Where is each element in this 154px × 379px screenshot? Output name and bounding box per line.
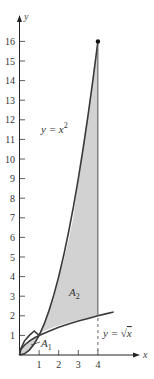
endpoint-marker	[96, 39, 100, 43]
parabola-label: y = x2	[40, 121, 68, 135]
y-axis-arrow-icon	[17, 15, 22, 22]
y-tick-label: 2	[10, 310, 15, 321]
y-tick-label: 15	[5, 56, 15, 67]
x-tick-label: 3	[76, 359, 81, 370]
sqrt-label-arg: x	[126, 327, 132, 339]
y-tick-label: 10	[5, 154, 15, 165]
sqrt-label: y = √x	[102, 327, 132, 339]
y-tick-label: 7	[10, 212, 15, 223]
y-tick-label: 6	[10, 232, 15, 243]
region-a2-sub: 2	[76, 292, 80, 301]
y-tick-label: 5	[10, 252, 15, 263]
y-axis-label: y	[23, 11, 29, 22]
x-axis-label: x	[142, 349, 148, 360]
region-a1-sub: 1	[48, 343, 52, 352]
parabola-label-exp: 2	[64, 121, 68, 130]
x-axis-arrow-icon	[133, 353, 140, 358]
shaded-regions	[20, 41, 98, 355]
x-tick-label: 4	[95, 359, 100, 370]
y-tick-label: 14	[5, 75, 15, 86]
y-tick-label: 11	[5, 134, 15, 145]
y-tick-label: 16	[5, 36, 15, 47]
y-tick-label: 13	[5, 95, 15, 106]
parabola-label-main: y = x	[40, 123, 64, 135]
area-between-curves-chart: 1 2 3 4 x 1 2 3 4 5 6 7 8 9 10 11 12 1	[0, 0, 154, 379]
y-tick-label: 1	[10, 330, 15, 341]
x-tick-label: 1	[37, 359, 42, 370]
y-tick-label: 3	[10, 291, 15, 302]
x-tick-labels: 1 2 3 4	[37, 359, 101, 370]
region-fill	[20, 41, 98, 355]
sqrt-label-prefix: y =	[102, 327, 121, 339]
region-a1-label: A1	[40, 337, 52, 352]
y-ticks	[20, 41, 26, 335]
y-tick-label: 4	[10, 271, 15, 282]
x-tick-label: 2	[56, 359, 61, 370]
y-tick-label: 8	[10, 193, 15, 204]
y-tick-label: 9	[10, 173, 15, 184]
y-tick-labels: 1 2 3 4 5 6 7 8 9 10 11 12 13 14 15 16	[5, 36, 15, 341]
y-tick-label: 12	[5, 114, 15, 125]
